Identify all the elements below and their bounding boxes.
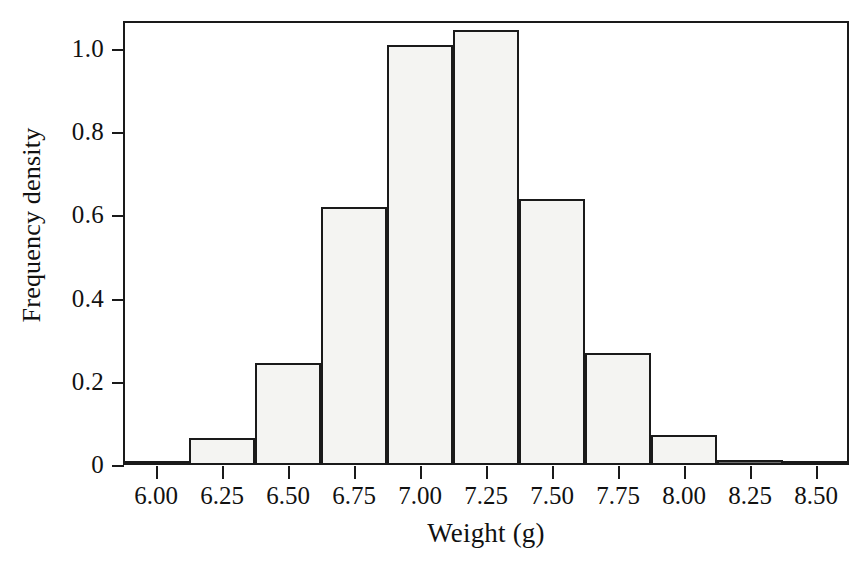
x-axis-tick xyxy=(816,466,818,479)
y-axis-title-holder: Frequency density xyxy=(0,0,40,500)
y-axis-tick xyxy=(112,465,124,467)
x-axis-title: Weight (g) xyxy=(123,518,849,549)
y-axis-tick xyxy=(112,49,124,51)
y-axis-tick xyxy=(112,382,124,384)
x-axis-tick xyxy=(222,466,224,479)
x-axis-tick xyxy=(288,466,290,479)
y-axis-tick-label: 0.8 xyxy=(42,119,104,144)
x-axis-tick xyxy=(354,466,356,479)
y-axis-tick xyxy=(112,299,124,301)
x-axis-tick xyxy=(420,466,422,479)
x-axis-tick xyxy=(156,466,158,479)
y-axis-tick xyxy=(112,215,124,217)
y-axis-tick-label: 0 xyxy=(42,452,104,477)
histogram-figure: 00.20.40.60.81.06.006.256.506.757.007.25… xyxy=(0,0,865,564)
x-axis-tick xyxy=(750,466,752,479)
y-axis-tick-label: 0.2 xyxy=(42,369,104,394)
x-axis-tick xyxy=(486,466,488,479)
x-axis-tick-label: 8.50 xyxy=(771,483,861,508)
y-axis-tick-label: 0.6 xyxy=(42,202,104,227)
x-axis-tick xyxy=(684,466,686,479)
y-axis-tick-label: 1.0 xyxy=(42,36,104,61)
x-axis-tick xyxy=(618,466,620,479)
x-axis-tick xyxy=(552,466,554,479)
axes-decorations: 00.20.40.60.81.06.006.256.506.757.007.25… xyxy=(0,0,865,564)
y-axis-tick-label: 0.4 xyxy=(42,286,104,311)
y-axis-tick xyxy=(112,132,124,134)
y-axis-title: Frequency density xyxy=(17,15,47,435)
